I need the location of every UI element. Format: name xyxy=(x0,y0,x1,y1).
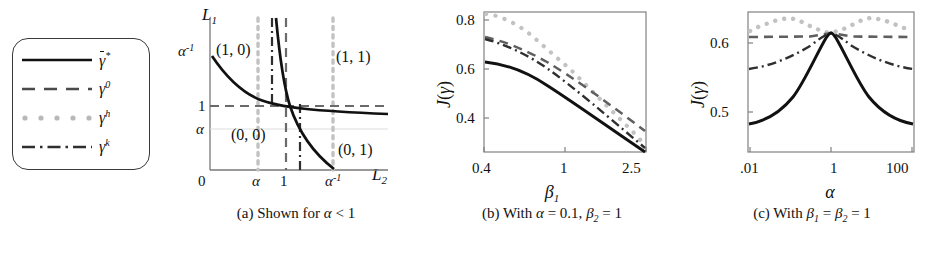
panel-b-gamma-k-curve xyxy=(485,39,645,148)
panel-b-xtick-04: 0.4 xyxy=(472,160,491,176)
panel-a: L1 L2 α-1 1 α 0 α 1 α-1 xyxy=(176,0,416,257)
panel-a-xlabel: L2 xyxy=(371,165,387,186)
panel-a-plot: L1 L2 α-1 1 α 0 α 1 α-1 xyxy=(176,0,416,205)
panel-a-xtick-alpha: α xyxy=(252,173,261,189)
panel-c-ylabel: J(γ) xyxy=(690,81,709,108)
panel-b-xtick-25: 2.5 xyxy=(622,160,641,176)
panel-a-region-label-0-1: (0, 1) xyxy=(338,141,373,159)
figure-root: γ* γ0 γh xyxy=(0,0,934,257)
panel-c-gamma-h-curve xyxy=(750,18,910,33)
panel-b: J(γ) 0.8 0.6 0.4 0.4 1 2.5 β1 xyxy=(434,0,670,257)
panel-c-caption: (c) With β1 = β2 = 1 xyxy=(690,205,934,224)
panel-c-xtick-1: 1 xyxy=(830,160,838,176)
panel-a-ytick-alpha: α xyxy=(196,121,205,137)
panel-c-plot: J(γ) 0.6 0.5 .01 1 100 α xyxy=(690,0,934,205)
panel-b-xlabel: β1 xyxy=(544,182,559,204)
panel-b-ytick-06: 0.6 xyxy=(456,61,475,77)
legend-label-gamma-star: γ* xyxy=(99,51,110,68)
legend-item-gamma-h: γh xyxy=(21,103,143,133)
legend-label-gamma-k: γk xyxy=(99,138,110,155)
panel-b-ytick-08: 0.8 xyxy=(456,12,475,28)
panel-a-ytick-1: 1 xyxy=(198,98,206,114)
panel-c-gamma-star-curve xyxy=(749,33,913,124)
panel-c-xtick-001: .01 xyxy=(740,160,759,176)
panel-b-gamma-0-curve xyxy=(485,37,645,131)
panel-c: J(γ) 0.6 0.5 .01 1 100 α xyxy=(690,0,934,257)
panel-b-axes-frame xyxy=(484,12,646,152)
panel-b-xtick-1: 1 xyxy=(560,160,568,176)
panel-a-ytick-alpha-inv: α-1 xyxy=(178,42,194,59)
panel-b-ytick-04: 0.4 xyxy=(456,110,475,126)
panel-a-region-label-1-0: (1, 0) xyxy=(216,41,251,59)
legend-item-gamma-k: γk xyxy=(21,132,143,162)
panel-c-xlabel: α xyxy=(825,182,835,202)
panel-b-gamma-star-curve xyxy=(485,62,645,152)
panel-b-caption: (b) With α = 0.1, β2 = 1 xyxy=(434,205,670,224)
panel-a-xtick-0: 0 xyxy=(198,173,206,189)
panel-a-xtick-1: 1 xyxy=(280,173,288,189)
panel-b-gamma-h-curve xyxy=(486,14,643,143)
panel-b-plot: J(γ) 0.8 0.6 0.4 0.4 1 2.5 β1 xyxy=(434,0,670,205)
panel-c-ytick-05: 0.5 xyxy=(710,104,729,120)
panel-a-caption: (a) Shown for α < 1 xyxy=(176,205,416,222)
dashed-line-sample-icon xyxy=(21,82,93,96)
dotted-line-sample-icon xyxy=(21,111,93,125)
panel-c-gamma-k-curve xyxy=(749,33,913,69)
panel-c-xtick-100: 100 xyxy=(886,160,909,176)
panel-a-xtick-alpha-inv: α-1 xyxy=(325,172,341,189)
panel-a-region-label-1-1: (1, 1) xyxy=(336,48,371,66)
panel-a-region-label-0-0: (0, 0) xyxy=(231,126,266,144)
solid-line-sample-icon xyxy=(21,53,93,67)
panel-b-ylabel: J(γ) xyxy=(434,81,455,108)
legend-label-gamma-0: γ0 xyxy=(99,80,110,97)
dashdot-line-sample-icon xyxy=(21,140,93,154)
panel-a-ylabel: L1 xyxy=(201,5,217,26)
legend-item-gamma-star: γ* xyxy=(21,45,143,75)
legend-item-gamma-0: γ0 xyxy=(21,74,143,104)
panel-c-ytick-06: 0.6 xyxy=(710,35,729,51)
curve-style-legend: γ* γ0 γh xyxy=(12,38,150,170)
legend-label-gamma-h: γh xyxy=(99,109,110,126)
panel-a-gamma-star-lower-branch xyxy=(276,18,334,169)
